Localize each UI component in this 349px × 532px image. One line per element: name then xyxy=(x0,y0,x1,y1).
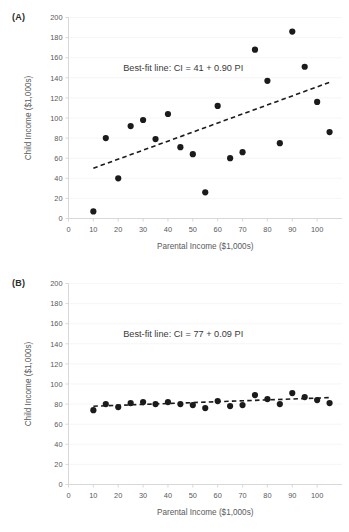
x-tick-label: 30 xyxy=(139,225,147,234)
data-point xyxy=(302,394,308,400)
y-tick-label: 20 xyxy=(54,460,62,469)
y-tick-label: 100 xyxy=(50,380,62,389)
data-point xyxy=(239,402,245,408)
x-tick-label: 60 xyxy=(214,225,222,234)
best-fit-annotation: Best-fit line: CI = 41 + 0.90 PI xyxy=(123,63,243,73)
data-point xyxy=(128,123,134,129)
y-tick-label: 160 xyxy=(50,319,62,328)
x-tick-label: 50 xyxy=(189,491,197,500)
x-tick-label: 30 xyxy=(139,491,147,500)
data-point xyxy=(128,400,134,406)
x-tick-label: 70 xyxy=(238,491,246,500)
data-point xyxy=(239,149,245,155)
data-point xyxy=(165,399,171,405)
best-fit-annotation: Best-fit line: CI = 77 + 0.09 PI xyxy=(123,329,243,339)
data-point xyxy=(152,136,158,142)
y-tick-label: 140 xyxy=(50,340,62,349)
x-tick-label: 10 xyxy=(89,491,97,500)
x-tick-label: 100 xyxy=(311,491,323,500)
panel-b: (B) 020406080100120140160180200010203040… xyxy=(0,266,349,532)
y-tick-label: 180 xyxy=(50,33,62,42)
data-point xyxy=(90,407,96,413)
y-tick-label: 80 xyxy=(54,400,62,409)
x-tick-label: 80 xyxy=(263,225,271,234)
panel-b-plot: 0204060801001201401601802000102030405060… xyxy=(0,266,349,532)
y-tick-label: 40 xyxy=(54,440,62,449)
y-tick-label: 200 xyxy=(50,279,62,288)
y-tick-label: 0 xyxy=(58,214,62,223)
data-point xyxy=(264,78,270,84)
data-point xyxy=(103,135,109,141)
y-tick-label: 160 xyxy=(50,53,62,62)
y-tick-label: 60 xyxy=(54,154,62,163)
y-tick-label: 20 xyxy=(54,194,62,203)
data-point xyxy=(289,28,295,34)
panel-a: (A) 020406080100120140160180200010203040… xyxy=(0,0,349,266)
data-point xyxy=(103,401,109,407)
y-tick-label: 140 xyxy=(50,74,62,83)
data-point xyxy=(140,117,146,123)
data-point xyxy=(202,189,208,195)
data-point xyxy=(215,103,221,109)
x-tick-label: 60 xyxy=(214,491,222,500)
data-point xyxy=(140,399,146,405)
figure-scatter-plots: (A) 020406080100120140160180200010203040… xyxy=(0,0,349,532)
data-point xyxy=(252,47,258,53)
data-point xyxy=(326,129,332,135)
data-point xyxy=(115,404,121,410)
x-tick-label: 20 xyxy=(114,225,122,234)
y-tick-label: 100 xyxy=(50,114,62,123)
y-tick-label: 120 xyxy=(50,94,62,103)
data-point xyxy=(190,151,196,157)
x-tick-label: 10 xyxy=(89,225,97,234)
x-tick-label: 90 xyxy=(288,491,296,500)
y-tick-label: 180 xyxy=(50,299,62,308)
panel-a-plot: 0204060801001201401601802000102030405060… xyxy=(0,0,349,266)
x-tick-label: 100 xyxy=(311,225,323,234)
x-tick-label: 70 xyxy=(238,225,246,234)
data-point xyxy=(302,64,308,70)
x-tick-label: 0 xyxy=(66,491,70,500)
data-point xyxy=(264,396,270,402)
data-point xyxy=(314,397,320,403)
data-point xyxy=(277,140,283,146)
data-point xyxy=(165,111,171,117)
data-point xyxy=(252,392,258,398)
data-point xyxy=(277,401,283,407)
data-point xyxy=(289,390,295,396)
data-point xyxy=(115,175,121,181)
x-axis-title: Parental Income ($1,000s) xyxy=(157,242,254,251)
x-tick-label: 40 xyxy=(164,225,172,234)
x-tick-label: 50 xyxy=(189,225,197,234)
data-point xyxy=(177,144,183,150)
data-point xyxy=(326,400,332,406)
data-point xyxy=(177,401,183,407)
data-point xyxy=(90,208,96,214)
y-tick-label: 60 xyxy=(54,420,62,429)
y-tick-label: 200 xyxy=(50,13,62,22)
data-point xyxy=(314,99,320,105)
data-point xyxy=(227,403,233,409)
x-tick-label: 40 xyxy=(164,491,172,500)
data-point xyxy=(227,155,233,161)
x-tick-label: 80 xyxy=(263,491,271,500)
data-point xyxy=(202,405,208,411)
y-tick-label: 120 xyxy=(50,360,62,369)
data-point xyxy=(152,401,158,407)
y-axis-title: Child Income ($1,000s) xyxy=(24,75,33,160)
x-tick-label: 20 xyxy=(114,491,122,500)
x-axis-title: Parental Income ($1,000s) xyxy=(157,508,254,517)
y-tick-label: 40 xyxy=(54,174,62,183)
x-tick-label: 90 xyxy=(288,225,296,234)
data-point xyxy=(190,402,196,408)
y-axis-title: Child Income ($1,000s) xyxy=(24,341,33,426)
x-tick-label: 0 xyxy=(66,225,70,234)
data-point xyxy=(215,398,221,404)
y-tick-label: 0 xyxy=(58,480,62,489)
y-tick-label: 80 xyxy=(54,134,62,143)
